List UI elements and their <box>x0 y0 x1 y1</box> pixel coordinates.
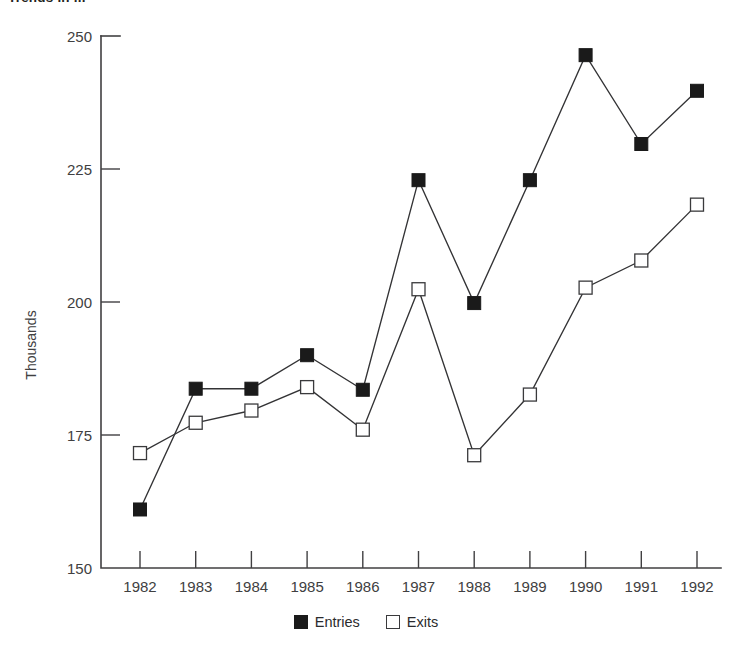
x-tick-label: 1990 <box>569 578 602 595</box>
data-point-marker <box>245 404 258 417</box>
data-point-marker <box>356 423 369 436</box>
chart-legend: Entries Exits <box>0 614 732 630</box>
line-chart-figure: Trends in ... 250 225 200 175 150 Thousa… <box>0 0 732 652</box>
series-markers-exits <box>134 198 704 462</box>
x-tick-label: 1989 <box>513 578 546 595</box>
data-point-marker <box>468 297 481 310</box>
data-point-marker <box>245 382 258 395</box>
legend-label-exits: Exits <box>407 614 438 630</box>
data-point-marker <box>134 503 147 516</box>
legend-swatch-filled-square-icon <box>294 615 308 629</box>
x-tick-label: 1984 <box>235 578 268 595</box>
data-point-marker <box>579 281 592 294</box>
data-point-marker <box>412 283 425 296</box>
y-tick-label: 200 <box>67 294 92 311</box>
y-tick-label: 175 <box>67 427 92 444</box>
y-tick-label: 250 <box>67 28 92 45</box>
data-point-marker <box>189 416 202 429</box>
y-tick-label: 225 <box>67 161 92 178</box>
y-axis-title: Thousands <box>23 310 39 379</box>
legend-label-entries: Entries <box>315 614 360 630</box>
x-tick-label: 1988 <box>458 578 491 595</box>
legend-swatch-hollow-square-icon <box>386 615 400 629</box>
x-axis-tick-labels: 1982198319841985198619871988198919901991… <box>123 578 713 595</box>
x-tick-label: 1982 <box>123 578 156 595</box>
legend-item-entries: Entries <box>294 614 360 630</box>
y-axis-tick-labels: 250 225 200 175 150 <box>67 28 92 577</box>
data-point-marker <box>691 84 704 97</box>
data-point-marker <box>356 383 369 396</box>
x-tick-label: 1992 <box>680 578 713 595</box>
data-point-marker <box>134 447 147 460</box>
data-point-marker <box>635 254 648 267</box>
data-point-marker <box>468 449 481 462</box>
series-line-exits <box>140 205 697 456</box>
x-tick-label: 1986 <box>346 578 379 595</box>
data-point-marker <box>412 174 425 187</box>
data-point-marker <box>691 198 704 211</box>
y-axis-ticks <box>101 169 120 435</box>
x-tick-label: 1985 <box>290 578 323 595</box>
data-point-marker <box>523 174 536 187</box>
chart-plot-area: 250 225 200 175 150 Thousands 1982198319… <box>0 0 732 652</box>
axis-spine <box>101 36 721 568</box>
data-point-marker <box>579 49 592 62</box>
data-point-marker <box>635 137 648 150</box>
data-point-marker <box>189 382 202 395</box>
x-tick-label: 1987 <box>402 578 435 595</box>
y-tick-label: 150 <box>67 560 92 577</box>
data-point-marker <box>301 349 314 362</box>
x-axis-ticks <box>140 551 697 568</box>
data-point-marker <box>523 388 536 401</box>
x-tick-label: 1983 <box>179 578 212 595</box>
legend-item-exits: Exits <box>386 614 438 630</box>
x-tick-label: 1991 <box>625 578 658 595</box>
data-point-marker <box>301 381 314 394</box>
